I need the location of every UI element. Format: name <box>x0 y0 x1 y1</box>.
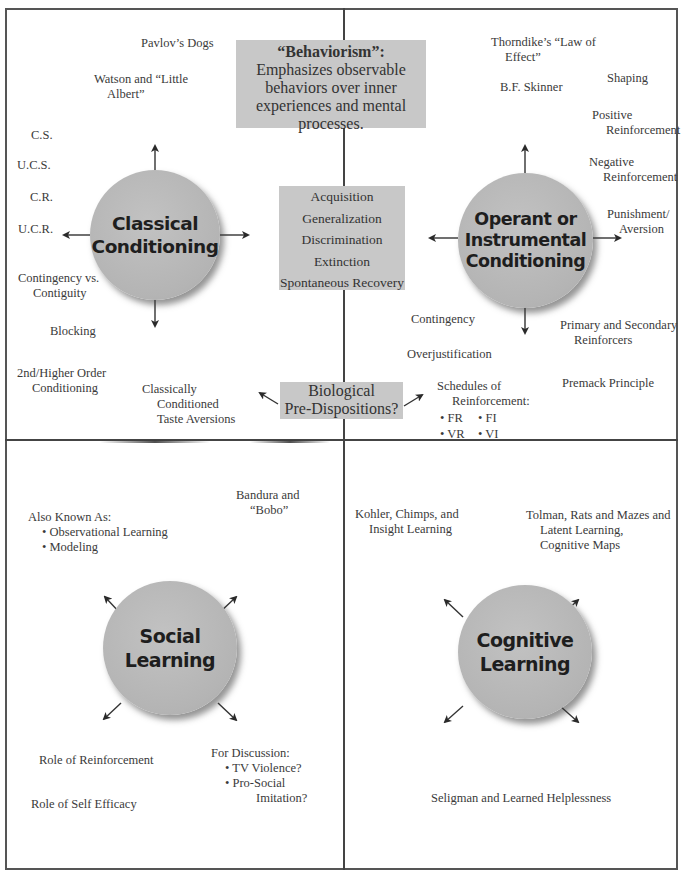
schedule-vi: • VI <box>478 427 498 441</box>
label-text: Positive <box>592 108 632 122</box>
biological-box: Biological Pre-Dispositions? <box>280 382 403 419</box>
label-schedules: Schedules of Reinforcement: <box>437 379 530 409</box>
label-text: Reinforcement: <box>437 394 530 409</box>
label-pavlov: Pavlov’s Dogs <box>141 36 214 51</box>
label-text: For Discussion: <box>211 746 290 760</box>
label-role-of-reinforcement: Role of Reinforcement <box>39 753 154 768</box>
biological-line: Biological <box>308 382 375 399</box>
label-thorndike: Thorndike’s “Law of Effect” <box>491 35 596 65</box>
schedules-list: • FR• FI • VR• VI <box>440 410 498 442</box>
behaviorism-box: “Behaviorism”: Emphasizes observable beh… <box>236 40 426 128</box>
term: Discrimination <box>302 232 383 247</box>
label-text: Contingency vs. <box>18 271 99 285</box>
schedule-fi: • FI <box>478 411 497 425</box>
label-text: • Pro-Social <box>211 776 307 791</box>
cognitive-learning-circle: CognitiveLearning <box>458 585 592 719</box>
behaviorism-line: processes. <box>298 115 363 132</box>
circle-title-line: Cognitive <box>476 629 573 651</box>
label-text: Bandura and <box>236 488 300 502</box>
label-negative-reinforcement: Negative Reinforcement <box>589 155 677 185</box>
label-text: “Bobo” <box>236 503 300 518</box>
label-punishment: Punishment/ Aversion <box>607 207 670 237</box>
label-watson: Watson and “Little Albert” <box>94 72 188 102</box>
label-text: Premack Principle <box>562 376 654 390</box>
circle-title-line: Operant or <box>474 209 576 229</box>
label-text: Schedules of <box>437 379 501 393</box>
label-text: 2nd/Higher Order <box>17 366 106 380</box>
classical-conditioning-circle: ClassicalConditioning <box>90 170 220 300</box>
label-text: Shaping <box>607 71 648 85</box>
term: Acquisition <box>311 189 374 204</box>
circle-title-line: Social <box>140 625 201 647</box>
label-text: Role of Self Efficacy <box>31 797 137 811</box>
label-text: Kohler, Chimps, and <box>355 507 459 521</box>
label-text: Aversion <box>607 222 670 237</box>
social-learning-circle: SocialLearning <box>103 581 237 715</box>
label-text: Watson and “Little <box>94 72 188 86</box>
biological-line: Pre-Dispositions? <box>285 400 399 417</box>
circle-title-line: Conditioning <box>92 236 219 257</box>
circle-title-line: Classical <box>112 213 198 234</box>
label-text: Primary and Secondary <box>560 318 677 332</box>
label-text: Overjustification <box>407 347 492 361</box>
label-tolman: Tolman, Rats and Mazes and Latent Learni… <box>526 508 671 553</box>
label-text: Imitation? <box>211 791 307 806</box>
circle-title-line: Instrumental <box>465 230 587 250</box>
label-ucr: U.C.R. <box>18 222 53 237</box>
label-text: B.F. Skinner <box>500 80 563 94</box>
label-text: Contingency <box>411 312 475 326</box>
label-shaping: Shaping <box>607 71 648 86</box>
label-text: Seligman and Learned Helplessness <box>431 791 611 805</box>
label-text: U.C.R. <box>18 222 53 236</box>
label-contingency: Contingency <box>411 312 475 327</box>
label-text: C.R. <box>30 190 53 204</box>
label-ucs: U.C.S. <box>17 158 51 173</box>
label-text: Conditioned <box>142 397 235 412</box>
label-text: U.C.S. <box>17 158 51 172</box>
label-text: Punishment/ <box>607 207 670 221</box>
behaviorism-line: Emphasizes observable <box>256 61 406 78</box>
label-text: Latent Learning, <box>526 523 671 538</box>
label-text: Role of Reinforcement <box>39 753 154 767</box>
label-text: Thorndike’s “Law of <box>491 35 596 49</box>
circle-title-line: Conditioning <box>466 251 586 271</box>
label-taste-aversions: Classically Conditioned Taste Aversions <box>142 382 235 427</box>
label-text: Tolman, Rats and Mazes and <box>526 508 671 522</box>
label-text: • Observational Learning <box>28 525 168 540</box>
behaviorism-line: experiences and mental <box>256 97 406 114</box>
label-text: C.S. <box>31 128 53 142</box>
label-text: Reinforcement <box>592 123 680 138</box>
divider-shadow-left <box>100 440 210 443</box>
label-overjustification: Overjustification <box>407 347 492 362</box>
circle-title-line: Learning <box>125 649 215 671</box>
label-text: Also Known As: <box>28 510 111 524</box>
label-text: Cognitive Maps <box>526 538 671 553</box>
label-primary-secondary: Primary and Secondary Reinforcers <box>560 318 677 348</box>
behaviorism-title: “Behaviorism”: <box>277 43 385 60</box>
term: Extinction <box>314 254 370 269</box>
label-text: Effect” <box>491 50 596 65</box>
label-text: Reinforcement <box>589 170 677 185</box>
label-text: Conditioning <box>17 381 106 396</box>
operant-conditioning-circle: Operant orInstrumentalConditioning <box>458 173 593 308</box>
schedule-fr: • FR <box>440 410 478 426</box>
label-bandura: Bandura and “Bobo” <box>236 488 300 518</box>
term: Spontaneous Recovery <box>280 275 404 290</box>
term: Generalization <box>302 211 381 226</box>
label-contingency-contiguity: Contingency vs. Contiguity <box>18 271 99 301</box>
label-higher-order: 2nd/Higher Order Conditioning <box>17 366 106 396</box>
label-seligman: Seligman and Learned Helplessness <box>431 791 611 806</box>
label-text: Albert” <box>94 87 188 102</box>
label-blocking: Blocking <box>50 324 96 339</box>
label-text: • Modeling <box>28 540 168 555</box>
label-premack: Premack Principle <box>562 376 654 391</box>
label-text: Insight Learning <box>355 522 459 537</box>
label-cs: C.S. <box>31 128 53 143</box>
label-text: Pavlov’s Dogs <box>141 36 214 50</box>
circle-title-line: Learning <box>480 653 570 675</box>
label-self-efficacy: Role of Self Efficacy <box>31 797 137 812</box>
divider-shadow-center <box>250 440 330 443</box>
label-text: Classically <box>142 382 197 396</box>
label-text: Taste Aversions <box>142 412 235 427</box>
label-skinner: B.F. Skinner <box>500 80 563 95</box>
